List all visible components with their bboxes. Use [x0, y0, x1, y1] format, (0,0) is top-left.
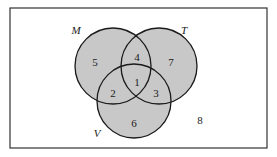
venn-diagram: MTV 54712368 — [0, 0, 277, 157]
region-label-1: 1 — [134, 76, 140, 88]
region-label-3: 3 — [153, 87, 159, 99]
region-label-7: 7 — [168, 56, 174, 68]
set-label-m: M — [70, 24, 81, 36]
region-label-5: 5 — [92, 56, 98, 68]
region-label-6: 6 — [131, 117, 137, 129]
region-label-2: 2 — [110, 87, 116, 99]
region-label-4: 4 — [134, 51, 140, 63]
region-label-8: 8 — [197, 114, 203, 126]
set-label-t: T — [181, 24, 188, 36]
